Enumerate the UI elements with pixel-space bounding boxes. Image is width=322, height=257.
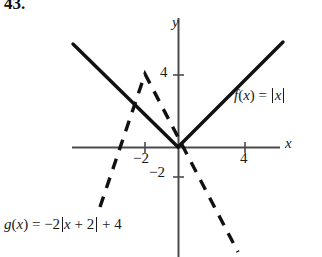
g-abs-bar-left-icon <box>62 217 63 233</box>
y-tick-label-neg2: −2 <box>149 164 165 181</box>
f-argument: x <box>275 87 282 103</box>
g-outer-plus: + <box>102 216 110 232</box>
g-close-paren: ) <box>23 216 28 232</box>
f-close-paren: ) <box>250 87 255 103</box>
abs-bar-left-icon <box>272 88 273 104</box>
g-inner-variable: x <box>64 216 71 232</box>
g-abs-bar-right-icon <box>96 217 97 233</box>
g-coefficient: −2 <box>44 216 60 232</box>
abs-bar-right-icon <box>283 88 284 104</box>
x-axis-label: x <box>285 135 292 152</box>
g-inner-plus: + <box>75 216 83 232</box>
x-tick-label-neg2: −2 <box>133 150 149 167</box>
x-tick-label-4: 4 <box>240 150 248 167</box>
y-tick-label-4: 4 <box>160 64 168 81</box>
function-label-g: g(x) = −2x + 2 + 4 <box>4 216 122 233</box>
g-equals: = <box>32 216 40 232</box>
f-equals: = <box>259 87 267 103</box>
g-outer-constant: 4 <box>114 216 122 232</box>
f-variable: x <box>243 87 250 103</box>
problem-number: 43. <box>4 0 25 14</box>
function-label-f: f(x) = x <box>234 87 285 104</box>
absolute-value-graph-figure: 43. y x −2 4 4 −2 f(x) = x g(x) = −2x + … <box>0 0 322 257</box>
g-inner-constant: 2 <box>87 216 95 232</box>
y-axis-label: y <box>172 14 179 31</box>
g-name: g <box>4 216 12 232</box>
